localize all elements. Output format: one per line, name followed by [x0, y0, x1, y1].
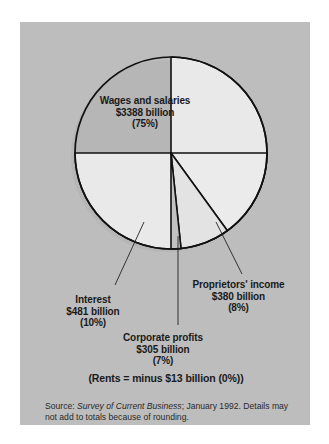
chart-panel: Wages and salaries $3388 billion (75%) I…: [20, 22, 310, 425]
slice-label-rents-note: (Rents = minus $13 billion (0%)): [40, 372, 292, 384]
slice-label-percent: (10%): [40, 317, 146, 329]
source-publication: Survey of Current Business: [77, 401, 182, 411]
slice-label-interest: Interest $481 billion (10%): [40, 294, 146, 329]
slice-label-name: Interest: [40, 294, 146, 306]
slice-label-name: Corporate profits: [98, 332, 228, 344]
slice-label-percent: (8%): [167, 302, 310, 314]
slice-label-value: $305 billion: [98, 344, 228, 356]
slice-label-proprietors-income: Proprietors' income $380 billion (8%): [167, 279, 310, 314]
slice-label-value: $380 billion: [167, 291, 310, 303]
slice-label-percent: (7%): [98, 355, 228, 367]
slice-label-name: Wages and salaries: [55, 95, 235, 107]
slice-label-value: $3388 billion: [55, 107, 235, 119]
slice-label-corporate-profits: Corporate profits $305 billion (7%): [98, 332, 228, 367]
slice-label-value: $481 billion: [40, 306, 146, 318]
source-prefix: Source:: [45, 401, 77, 411]
slice-label-wages-and-salaries: Wages and salaries $3388 billion (75%): [55, 95, 235, 130]
slice-label-percent: (75%): [55, 118, 235, 130]
source-note: Source: Survey of Current Business; Janu…: [45, 401, 297, 423]
slice-label-name: Proprietors' income: [167, 279, 310, 291]
figure-container: Wages and salaries $3388 billion (75%) I…: [0, 0, 329, 444]
